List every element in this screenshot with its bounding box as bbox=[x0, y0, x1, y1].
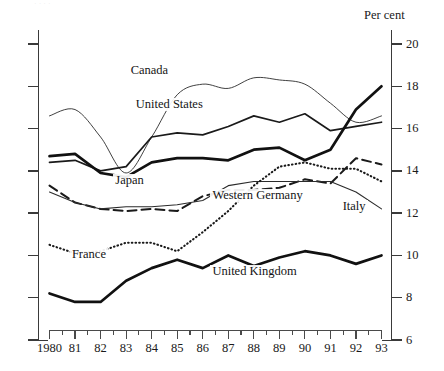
series-label-canada: Canada bbox=[129, 64, 170, 77]
series-label-italy: Italy bbox=[341, 200, 368, 213]
series-label-united-states: United States bbox=[134, 98, 205, 111]
series-label-japan: Japan bbox=[113, 174, 145, 187]
series-line-japan bbox=[50, 86, 382, 177]
series-plot-area bbox=[0, 0, 444, 371]
series-line-united-states bbox=[50, 114, 382, 171]
figure-container: · · · · Per cent 20181614121086 19808182… bbox=[0, 0, 444, 371]
series-label-western-germany: Western Germany bbox=[210, 189, 304, 202]
series-label-france: France bbox=[70, 248, 108, 261]
series-label-united-kingdom: United Kingdom bbox=[210, 265, 298, 278]
series-line-western-germany bbox=[50, 158, 382, 211]
